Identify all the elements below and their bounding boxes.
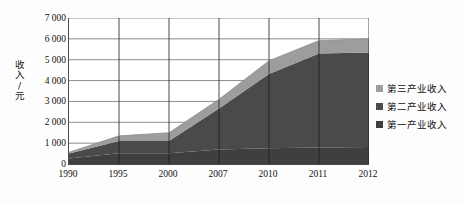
legend-item: 第一产业收入 [376,116,462,132]
x-axis-tick-label: 2007 [195,168,241,180]
x-axis-tick-label: 2012 [345,168,391,180]
y-axis-tick-label: 5 000 [26,55,66,65]
legend-item-label: 第三产业收入 [387,83,447,94]
x-axis-tick-label: 1990 [45,168,91,180]
y-axis-tick-label: 6 000 [26,34,66,44]
y-axis-tick-label: 3 000 [26,96,66,106]
x-axis-tick-label: 1995 [95,168,141,180]
y-axis-tick-label: 1 000 [26,138,66,148]
x-axis-tick-label: 2010 [245,168,291,180]
x-axis-tick-labels: 1990199520002007201020112012 [68,168,368,184]
legend-item-label: 第二产业收入 [387,101,447,112]
x-axis-tick-label: 2000 [145,168,191,180]
stacked-area-plot [69,18,369,164]
legend-item-label: 第一产业收入 [387,119,447,130]
y-axis-tick-label: 2 000 [26,117,66,127]
legend-item: 第二产业收入 [376,98,462,114]
plot-area [68,18,369,165]
legend-swatch-icon [376,121,383,128]
x-axis-tick-label: 2011 [295,168,341,180]
y-axis-title: 收入/元 [12,60,26,130]
chart-legend: 第三产业收入第二产业收入第一产业收入 [376,80,462,134]
y-axis-tick-label: 7 000 [26,13,66,23]
legend-swatch-icon [376,103,383,110]
legend-swatch-icon [376,85,383,92]
chart-figure: 收入/元 01 0002 0003 0004 0005 0006 0007 00… [0,0,465,203]
y-axis-tick-labels: 01 0002 0003 0004 0005 0006 0007 000 [26,12,66,164]
legend-item: 第三产业收入 [376,80,462,96]
y-axis-tick-label: 4 000 [26,76,66,86]
